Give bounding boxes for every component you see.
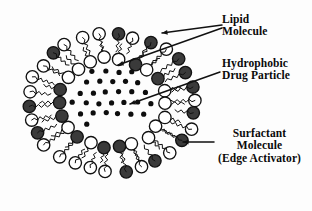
drug-particle — [96, 101, 101, 106]
drug-particle — [91, 110, 96, 115]
drug-particle — [110, 79, 115, 84]
drug-particle — [104, 110, 109, 115]
surfactant-head-white — [159, 97, 171, 109]
leader-hydrophobic-arrowhead — [130, 100, 136, 105]
drug-particle — [116, 70, 121, 75]
drug-particle — [116, 89, 121, 94]
drug-particle — [115, 111, 120, 116]
surfactant-head-white — [72, 63, 84, 75]
surfactant-head-white — [85, 136, 97, 148]
lipid-head-dark — [71, 131, 83, 143]
lipid-head-dark — [54, 83, 66, 95]
drug-particle — [141, 112, 146, 117]
label-lipid-line2: Molecule — [222, 25, 268, 37]
drug-particle — [78, 91, 83, 96]
drug-particle — [129, 69, 134, 74]
label-hydrophobic-drug-particle: Hydrophobic Drug Particle — [222, 57, 290, 82]
drug-particle — [129, 89, 134, 94]
label-surfactant-line3: (Edge Activator) — [218, 152, 301, 164]
label-surfactant-line1: Surfactant — [218, 127, 301, 139]
drug-particle — [84, 79, 89, 84]
label-hydrophobic-line2: Drug Particle — [222, 69, 290, 81]
drug-particle — [148, 101, 153, 106]
drug-particle — [123, 79, 128, 84]
label-surfactant-line2: Molecule — [218, 139, 301, 151]
drug-particle — [91, 91, 96, 96]
surfactant-head-white — [62, 121, 74, 133]
lipid-head-dark — [152, 72, 164, 84]
drug-particle — [78, 111, 83, 116]
drug-particle — [97, 79, 102, 84]
surfactant-head-white — [125, 138, 137, 150]
drug-particle — [103, 89, 108, 94]
label-lipid-line1: Lipid — [222, 13, 268, 25]
surfactant-head-white — [142, 131, 154, 143]
drug-particle-core — [70, 68, 154, 126]
surfactant-head-white — [149, 120, 161, 132]
lipid-head-dark — [113, 140, 125, 152]
lipid-head-dark — [53, 96, 65, 108]
label-lipid-molecule: Lipid Molecule — [222, 13, 268, 38]
drug-particle — [103, 68, 108, 73]
label-hydrophobic-line1: Hydrophobic — [222, 57, 290, 69]
lipid-head-dark — [56, 110, 68, 122]
drug-particle — [84, 122, 89, 127]
label-surfactant-molecule: Surfactant Molecule (Edge Activator) — [218, 127, 301, 164]
surfactant-head-white — [140, 64, 152, 76]
drug-particle — [70, 100, 75, 105]
drug-particle — [109, 100, 114, 105]
drug-particle — [89, 69, 94, 74]
drug-particle — [143, 90, 148, 95]
drug-particle — [135, 80, 140, 85]
drug-particle — [84, 100, 89, 105]
figure-canvas: Lipid Molecule Hydrophobic Drug Particle… — [0, 0, 312, 211]
drug-particle — [121, 100, 126, 105]
surfactant-head-white — [98, 51, 110, 63]
drug-particle — [128, 112, 133, 117]
surfactant-head-white — [84, 56, 96, 68]
lipid-head-dark — [98, 142, 110, 154]
